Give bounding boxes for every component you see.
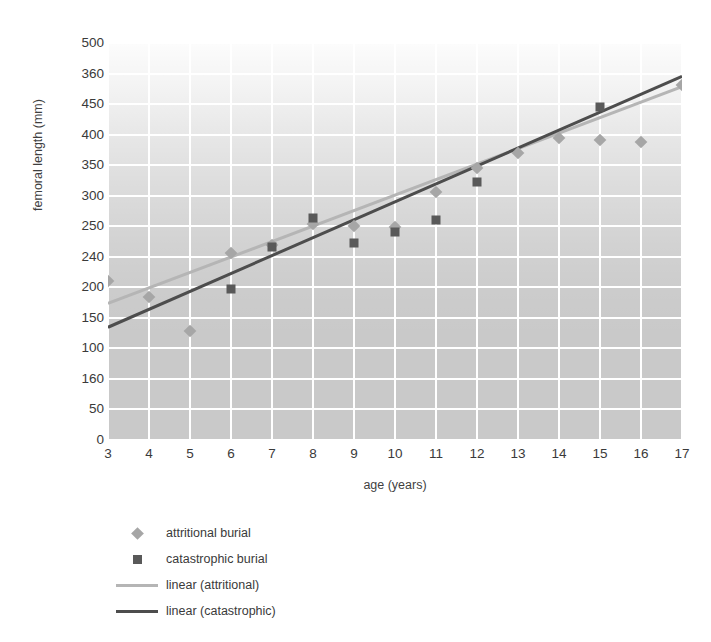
chart-legend: attritional burialcatastrophic buriallin… — [108, 520, 276, 624]
y-axis-tick-label: 150 — [52, 311, 104, 325]
y-axis-tick-label: 300 — [52, 189, 104, 203]
y-axis-tick-label: 100 — [52, 342, 104, 356]
y-axis-tick-label: 160 — [52, 372, 104, 386]
y-axis-tick-label: 500 — [52, 36, 104, 50]
x-axis-tick-label: 16 — [633, 447, 648, 461]
data-point-square — [596, 102, 605, 111]
y-axis-tick-label: 250 — [52, 219, 104, 233]
femoral-length-scatter-chart: femoral length (mm) 50036045040035030025… — [0, 0, 711, 642]
legend-item: catastrophic burial — [108, 546, 276, 572]
x-axis-tick-label: 9 — [350, 447, 358, 461]
trendline-catastrophic — [108, 76, 682, 327]
x-axis-tick-labels: 34567891011121314151617 — [108, 447, 682, 467]
legend-key-icon — [108, 584, 166, 587]
x-axis-tick-label: 4 — [145, 447, 153, 461]
x-axis-tick-label: 8 — [309, 447, 317, 461]
legend-item: linear (attritional) — [108, 572, 276, 598]
data-point-square — [432, 216, 441, 225]
x-axis-tick-label: 11 — [429, 447, 443, 461]
plot-area — [108, 43, 682, 440]
data-point-square — [350, 239, 359, 248]
legend-item-label: catastrophic burial — [166, 552, 267, 566]
x-axis-tick-label: 5 — [186, 447, 194, 461]
x-axis-tick-label: 7 — [268, 447, 276, 461]
data-point-square — [309, 213, 318, 222]
y-axis-tick-label: 400 — [52, 128, 104, 142]
y-axis-tick-label: 240 — [52, 250, 104, 264]
x-axis-tick-label: 13 — [510, 447, 525, 461]
data-point-square — [391, 227, 400, 236]
legend-item-label: linear (attritional) — [166, 578, 259, 592]
trendline-attritional — [108, 87, 682, 304]
legend-key-icon — [108, 529, 166, 538]
y-axis-tick-label: 450 — [52, 97, 104, 111]
x-axis-tick-label: 15 — [592, 447, 607, 461]
legend-item-label: attritional burial — [166, 526, 251, 540]
x-axis-title: age (years) — [108, 478, 682, 492]
data-point-square — [268, 243, 277, 252]
x-axis-tick-label: 10 — [387, 447, 402, 461]
y-axis-tick-label: 0 — [52, 433, 104, 447]
data-point-square — [227, 285, 236, 294]
legend-item: linear (catastrophic) — [108, 598, 276, 624]
y-axis-tick-labels: 500360450400350300250240200150100160500 — [52, 0, 104, 642]
line-dark-icon — [116, 610, 158, 613]
y-axis-tick-label: 360 — [52, 67, 104, 81]
diamond-marker-icon — [131, 527, 144, 540]
x-axis-tick-label: 17 — [674, 447, 689, 461]
x-axis-tick-label: 3 — [104, 447, 112, 461]
legend-item-label: linear (catastrophic) — [166, 604, 276, 618]
y-axis-tick-label: 350 — [52, 158, 104, 172]
x-axis-tick-label: 12 — [469, 447, 484, 461]
line-light-icon — [116, 584, 158, 587]
y-axis-tick-label: 50 — [52, 403, 104, 417]
legend-key-icon — [108, 555, 166, 564]
x-axis-tick-label: 6 — [227, 447, 235, 461]
legend-item: attritional burial — [108, 520, 276, 546]
data-point-square — [473, 177, 482, 186]
y-axis-tick-label: 200 — [52, 281, 104, 295]
y-axis-title: femoral length (mm) — [31, 55, 45, 255]
square-marker-icon — [133, 555, 142, 564]
legend-key-icon — [108, 610, 166, 613]
x-axis-tick-label: 14 — [551, 447, 566, 461]
